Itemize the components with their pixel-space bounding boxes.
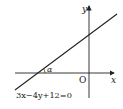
line-graph (15, 14, 117, 90)
y-axis-label: y (81, 4, 88, 14)
angle-label: α (47, 65, 53, 74)
angle-arc (44, 69, 45, 73)
coordinate-diagram: y x O α 3x−4y+12=0 (0, 0, 123, 109)
equation-label: 3x−4y+12=0 (16, 90, 72, 100)
origin-label: O (79, 75, 86, 85)
x-axis-label: x (111, 75, 116, 85)
